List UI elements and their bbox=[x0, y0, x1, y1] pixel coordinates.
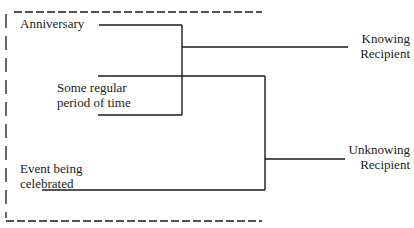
label-period: Some regular period of time bbox=[57, 80, 131, 110]
period-text-line2: period of time bbox=[57, 95, 131, 110]
unknowing-text-line2: Recipient bbox=[349, 157, 410, 172]
anniversary-text: Anniversary bbox=[20, 16, 84, 31]
label-anniversary: Anniversary bbox=[20, 16, 84, 31]
diagram-lines bbox=[0, 0, 414, 228]
event-text-line1: Event being bbox=[20, 161, 82, 176]
knowing-text-line2: Recipient bbox=[360, 46, 410, 61]
unknowing-text-line1: Unknowing bbox=[349, 142, 410, 157]
event-text-line2: celebrated bbox=[20, 176, 82, 191]
knowing-text-line1: Knowing bbox=[360, 31, 410, 46]
period-text-line1: Some regular bbox=[57, 80, 131, 95]
label-event: Event being celebrated bbox=[20, 161, 82, 191]
label-unknowing-recipient: Unknowing Recipient bbox=[349, 142, 410, 172]
label-knowing-recipient: Knowing Recipient bbox=[360, 31, 410, 61]
